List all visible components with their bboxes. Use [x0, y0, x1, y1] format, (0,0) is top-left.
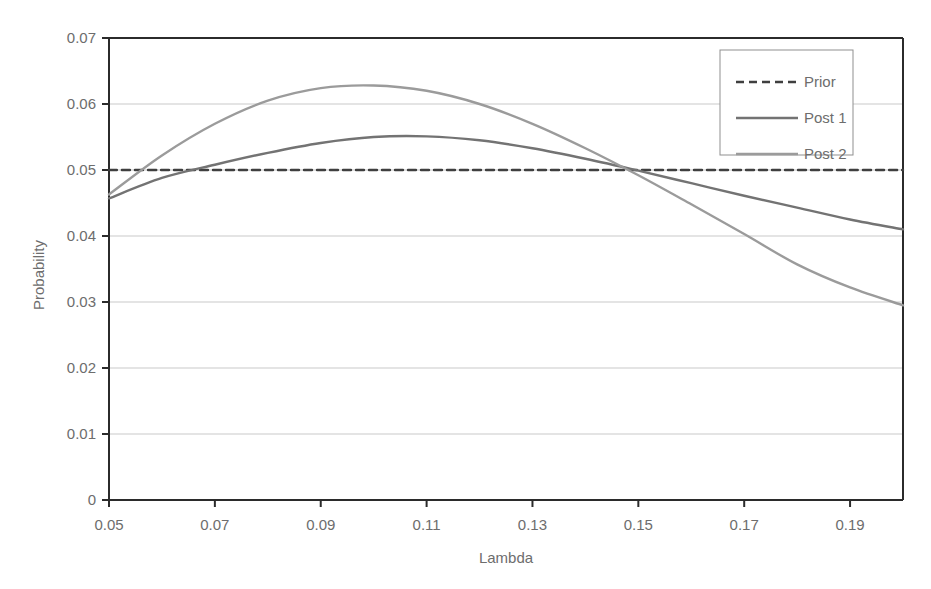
x-axis: 0.050.070.090.110.130.150.170.19	[94, 500, 864, 533]
legend-box	[720, 50, 853, 155]
y-tick-label: 0.06	[67, 95, 96, 112]
probability-vs-lambda-line-chart: 00.010.020.030.040.050.060.07 0.050.070.…	[0, 0, 931, 589]
legend-label-prior: Prior	[804, 73, 836, 90]
x-tick-label: 0.07	[200, 516, 229, 533]
legend-label-post-1: Post 1	[804, 109, 847, 126]
y-tick-label: 0.04	[67, 227, 96, 244]
x-tick-label: 0.09	[306, 516, 335, 533]
x-tick-label: 0.11	[413, 516, 441, 533]
y-tick-label: 0	[88, 491, 96, 508]
x-tick-label: 0.13	[518, 516, 547, 533]
legend: PriorPost 1Post 2	[720, 50, 853, 162]
y-tick-label: 0.03	[67, 293, 96, 310]
x-tick-label: 0.15	[624, 516, 653, 533]
x-axis-title: Lambda	[479, 549, 534, 566]
chart-container: 00.010.020.030.040.050.060.07 0.050.070.…	[0, 0, 931, 589]
y-axis: 00.010.020.030.040.050.060.07	[67, 29, 109, 508]
legend-label-post-2: Post 2	[804, 145, 847, 162]
y-axis-title: Probability	[30, 239, 47, 310]
x-tick-label: 0.17	[730, 516, 759, 533]
y-tick-label: 0.01	[67, 425, 96, 442]
y-tick-label: 0.02	[67, 359, 96, 376]
y-tick-label: 0.05	[67, 161, 96, 178]
x-tick-label: 0.05	[94, 516, 123, 533]
y-tick-label: 0.07	[67, 29, 96, 46]
x-tick-label: 0.19	[835, 516, 864, 533]
